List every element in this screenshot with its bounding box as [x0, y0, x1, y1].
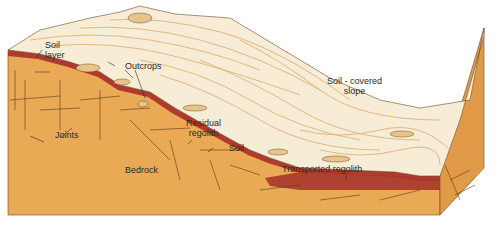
label-residual-regolith-line2: regolith: [186, 128, 221, 138]
label-soil-layer: Soil layer: [45, 40, 65, 60]
label-soil-covered-slope: Soil - covered slope: [327, 76, 382, 96]
label-soil-covered-slope-line1: Soil - covered: [327, 76, 382, 86]
label-soil-layer-line2: layer: [45, 50, 65, 60]
label-soil: Soil: [229, 143, 244, 153]
label-transported-regolith: Transported regolith: [282, 164, 362, 174]
label-residual-regolith: Residual regolith: [186, 118, 221, 138]
label-soil-covered-slope-line2: slope: [327, 86, 382, 96]
hillslope-block-diagram: [0, 0, 499, 228]
label-bedrock: Bedrock: [125, 165, 158, 175]
label-soil-layer-line1: Soil: [45, 40, 65, 50]
label-outcrops: Outcrops: [125, 61, 162, 71]
label-joints: Joints: [55, 130, 79, 140]
label-residual-regolith-line1: Residual: [186, 118, 221, 128]
